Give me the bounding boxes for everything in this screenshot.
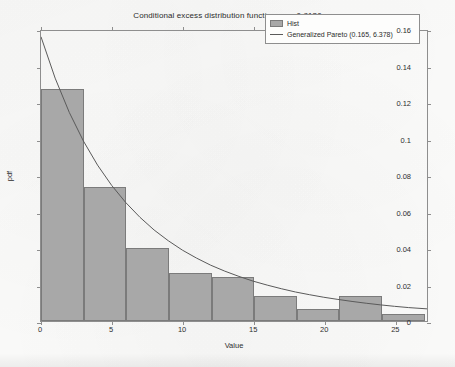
y-axis-tick-mark xyxy=(37,287,41,288)
legend-swatch-hist-icon xyxy=(270,20,283,27)
figure-container: Conditional excess distribution function… xyxy=(0,0,455,367)
legend-swatch-line-icon xyxy=(270,34,283,35)
y-axis-tick-mark xyxy=(427,214,431,215)
x-axis-tick-label: 10 xyxy=(178,325,186,334)
x-axis-tick-mark xyxy=(254,27,255,31)
legend-item-generalized-pareto: Generalized Pareto (0.165, 6.378) xyxy=(270,29,415,40)
y-axis-tick-label: 0.1 xyxy=(401,135,411,144)
y-axis-tick-label: 0.04 xyxy=(396,245,411,254)
y-axis-label: pdf xyxy=(5,171,14,181)
x-axis-tick-label: 25 xyxy=(391,325,399,334)
scan-edge-shadow xyxy=(0,353,455,367)
y-axis-tick-mark xyxy=(427,250,431,251)
y-axis-tick-mark xyxy=(37,250,41,251)
legend-item-hist: Hist xyxy=(270,18,415,29)
x-axis-tick-label: 20 xyxy=(320,325,328,334)
y-axis-tick-mark xyxy=(427,68,431,69)
legend-label-hist: Hist xyxy=(287,20,299,27)
y-axis-tick-label: 0.08 xyxy=(396,172,411,181)
y-axis-tick-mark xyxy=(427,287,431,288)
y-axis-tick-mark xyxy=(37,68,41,69)
y-axis-tick-mark xyxy=(37,104,41,105)
y-axis-tick-mark xyxy=(37,141,41,142)
legend-label-generalized-pareto: Generalized Pareto (0.165, 6.378) xyxy=(287,31,393,38)
x-axis-tick-mark xyxy=(41,27,42,31)
y-axis-tick-mark xyxy=(37,177,41,178)
y-axis-tick-label: 0.06 xyxy=(396,208,411,217)
x-axis-label: Value xyxy=(40,341,428,350)
x-axis-tick-label: 0 xyxy=(38,325,42,334)
y-axis-tick-label: 0.16 xyxy=(396,26,411,35)
y-axis-tick-mark xyxy=(37,31,41,32)
y-axis-tick-mark xyxy=(427,177,431,178)
chart-title-main: Conditional excess distribution function… xyxy=(133,11,285,20)
x-axis-tick-mark xyxy=(112,27,113,31)
y-axis-tick-mark xyxy=(427,31,431,32)
x-axis-tick-label: 5 xyxy=(109,325,113,334)
y-axis-tick-mark xyxy=(37,214,41,215)
plot-area xyxy=(40,30,428,322)
y-axis-tick-mark xyxy=(427,104,431,105)
plot-inner xyxy=(41,31,427,321)
y-axis-tick-mark xyxy=(427,141,431,142)
y-axis-tick-label: 0.12 xyxy=(396,99,411,108)
y-axis-tick-label: 0.02 xyxy=(396,281,411,290)
generalized-pareto-curve xyxy=(41,31,427,321)
y-axis-tick-mark xyxy=(427,323,431,324)
y-axis-tick-label: 0.14 xyxy=(396,62,411,71)
y-axis-tick-label: 0 xyxy=(407,318,411,327)
x-axis-tick-label: 15 xyxy=(249,325,257,334)
x-axis-tick-mark xyxy=(183,27,184,31)
